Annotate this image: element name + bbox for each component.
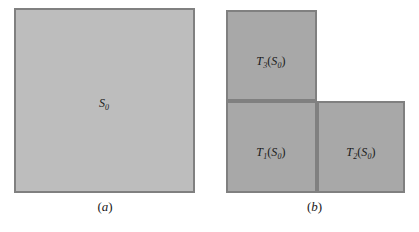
label-t3-close-paren: )	[282, 54, 286, 68]
label-t3-arg-subscript: 0	[278, 61, 282, 70]
panel-a: S0 (a)	[0, 0, 210, 232]
caption-a: (a)	[0, 199, 210, 215]
label-t1-map-base: T	[256, 145, 263, 159]
label-t1-map-subscript: 1	[263, 152, 267, 161]
caption-a-close-paren: )	[108, 199, 112, 214]
label-t2-map-subscript: 2	[353, 152, 357, 161]
label-t3-map-base: T	[256, 54, 263, 68]
label-t2-s0: T2(S0)	[346, 146, 375, 158]
label-t3-map-subscript: 3	[263, 61, 267, 70]
label-t1-s0: T1(S0)	[256, 146, 285, 158]
figure-root: S0 (a) T3(S0) T1(S0) T2(S0) (b)	[0, 0, 419, 232]
caption-b-close-paren: )	[318, 199, 322, 214]
panel-b: T3(S0) T1(S0) T2(S0) (b)	[210, 0, 419, 232]
label-t3-s0: T3(S0)	[256, 55, 285, 67]
caption-b: (b)	[210, 199, 419, 215]
label-s0-subscript: 0	[105, 103, 109, 112]
label-t1-close-paren: )	[282, 145, 286, 159]
label-s0: S0	[99, 97, 109, 109]
label-t2-map-base: T	[346, 145, 353, 159]
label-t2-arg-subscript: 0	[368, 152, 372, 161]
label-t1-arg-subscript: 0	[278, 152, 282, 161]
label-t2-close-paren: )	[372, 145, 376, 159]
